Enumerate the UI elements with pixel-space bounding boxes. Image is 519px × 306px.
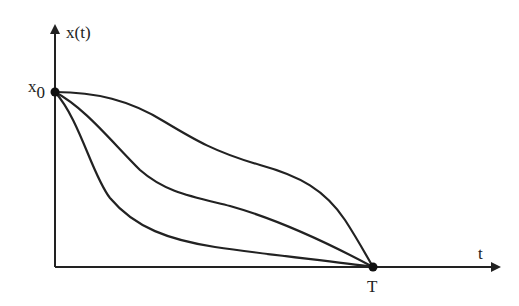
slow-decay-curve (55, 92, 373, 267)
y-axis-label: x(t) (66, 23, 91, 42)
end-point-label: T (367, 277, 378, 296)
start-point-label-subscript: 0 (37, 83, 46, 102)
start-point-label: x0 (28, 77, 45, 102)
medium-decay-curve (55, 92, 373, 267)
start-point-x0 (51, 88, 60, 97)
trajectory-diagram: x(t) t x0 T (0, 0, 519, 306)
fast-decay-curve (55, 92, 373, 267)
end-point-T (369, 263, 378, 272)
x-axis-label: t (478, 244, 483, 263)
